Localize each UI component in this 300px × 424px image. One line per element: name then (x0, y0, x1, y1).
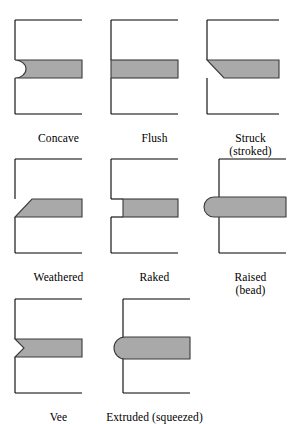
joint-label-text: Vee (50, 411, 68, 423)
joint-cell-struck: Struck (stroked) (201, 16, 300, 172)
mortar-bed-flush (111, 60, 178, 78)
joint-label-raised: Raised (bead) (201, 257, 300, 311)
joint-label-extruded: Extruded (squeezed) (105, 397, 204, 424)
joint-cell-concave: Concave (9, 16, 108, 145)
joint-label-weathered: Weathered (9, 257, 108, 284)
joint-label-vee: Vee (9, 397, 108, 424)
joint-sublabel-text: (bead) (201, 284, 300, 298)
joint-diagram-concave (9, 16, 108, 116)
joint-diagram-weathered (9, 155, 108, 255)
joint-cell-vee: Vee (9, 295, 108, 424)
joint-label-concave: Concave (9, 118, 108, 145)
joint-diagram-raked (105, 155, 204, 255)
mortar-bed-raised (204, 197, 286, 217)
mortar-bed-extruded (114, 337, 190, 359)
mortar-bed-concave (15, 60, 82, 78)
joint-label-text: Concave (38, 132, 79, 144)
joint-label-flush: Flush (105, 118, 204, 145)
mortar-bed-struck (207, 60, 279, 78)
joint-label-text: Raised (235, 271, 267, 283)
joint-diagram-raised (201, 155, 300, 255)
mortar-bed-vee (15, 339, 82, 357)
joint-label-text: Extruded (squeezed) (106, 411, 203, 423)
mortar-bed-weathered (15, 199, 82, 217)
joint-cell-raised: Raised (bead) (201, 155, 300, 311)
joint-cell-extruded: Extruded (squeezed) (105, 295, 204, 424)
joint-diagram-extruded (105, 295, 204, 395)
joint-diagram-vee (9, 295, 108, 395)
joint-diagram-struck (201, 16, 300, 116)
joint-cell-weathered: Weathered (9, 155, 108, 284)
joint-label-text: Struck (235, 132, 266, 144)
mortar-bed-raked (123, 199, 178, 217)
joint-label-text: Flush (141, 132, 167, 144)
joint-label-text: Weathered (34, 271, 84, 283)
joint-label-raked: Raked (105, 257, 204, 284)
joint-label-text: Raked (140, 271, 170, 283)
joint-cell-raked: Raked (105, 155, 204, 284)
joint-cell-flush: Flush (105, 16, 204, 145)
joint-diagram-flush (105, 16, 204, 116)
